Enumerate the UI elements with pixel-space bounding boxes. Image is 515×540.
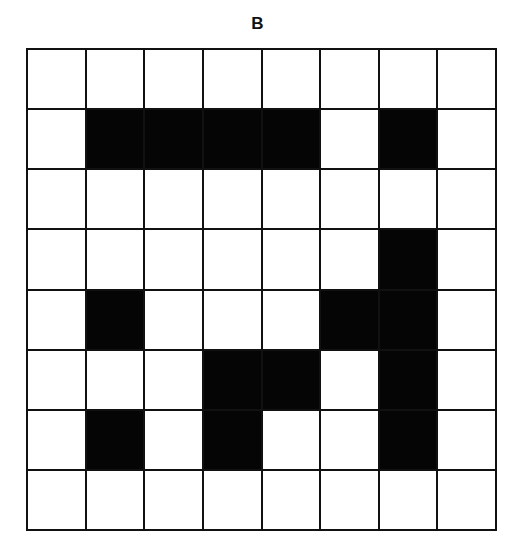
- grid-cell-empty: [321, 411, 378, 469]
- grid-cell-empty: [204, 230, 261, 288]
- grid-cell-empty: [204, 50, 261, 108]
- grid-cell-empty: [204, 471, 261, 529]
- grid-cell-filled: [380, 230, 437, 288]
- grid-cell-empty: [263, 471, 320, 529]
- grid-cell-empty: [321, 351, 378, 409]
- grid-cell-filled: [204, 110, 261, 168]
- grid-cell-empty: [87, 170, 144, 228]
- grid-cell-empty: [28, 351, 85, 409]
- grid-cell-filled: [87, 411, 144, 469]
- grid-cell-empty: [380, 50, 437, 108]
- grid-cell-empty: [263, 50, 320, 108]
- grid-cell-filled: [321, 291, 378, 349]
- grid-cell-empty: [438, 471, 495, 529]
- pixel-grid: [26, 48, 497, 531]
- grid-cell-empty: [263, 291, 320, 349]
- grid-cell-empty: [380, 471, 437, 529]
- grid-cell-empty: [263, 230, 320, 288]
- grid-cell-empty: [28, 110, 85, 168]
- grid-cell-empty: [145, 351, 202, 409]
- grid-cell-empty: [87, 50, 144, 108]
- grid-cell-empty: [438, 110, 495, 168]
- grid-cell-empty: [263, 170, 320, 228]
- grid-cell-empty: [263, 411, 320, 469]
- grid-cell-empty: [321, 170, 378, 228]
- grid-cell-empty: [28, 471, 85, 529]
- grid-cell-empty: [28, 50, 85, 108]
- grid-cell-empty: [145, 230, 202, 288]
- grid-cell-empty: [438, 411, 495, 469]
- grid-cell-empty: [380, 170, 437, 228]
- grid-cell-empty: [438, 291, 495, 349]
- grid-cell-filled: [380, 110, 437, 168]
- grid-cell-filled: [87, 291, 144, 349]
- grid-cell-empty: [145, 50, 202, 108]
- grid-cell-empty: [321, 471, 378, 529]
- grid-cell-filled: [263, 351, 320, 409]
- grid-cell-empty: [321, 230, 378, 288]
- grid-cell-empty: [87, 230, 144, 288]
- grid-cell-empty: [438, 170, 495, 228]
- grid-cell-filled: [145, 110, 202, 168]
- grid-cell-empty: [321, 110, 378, 168]
- grid-cell-empty: [204, 291, 261, 349]
- grid-cell-empty: [438, 230, 495, 288]
- grid-cell-empty: [28, 230, 85, 288]
- grid-cell-empty: [145, 170, 202, 228]
- grid-cell-filled: [204, 351, 261, 409]
- figure-label: B: [0, 14, 515, 34]
- grid-cell-filled: [87, 110, 144, 168]
- grid-cell-empty: [87, 471, 144, 529]
- grid-cell-filled: [380, 291, 437, 349]
- grid-cell-empty: [28, 291, 85, 349]
- grid-cell-filled: [380, 411, 437, 469]
- grid-cell-empty: [321, 50, 378, 108]
- grid-cell-empty: [145, 291, 202, 349]
- grid-cell-empty: [145, 411, 202, 469]
- grid-cell-filled: [204, 411, 261, 469]
- grid-cell-empty: [145, 471, 202, 529]
- grid-cell-empty: [438, 50, 495, 108]
- grid-cell-empty: [204, 170, 261, 228]
- grid-cell-empty: [87, 351, 144, 409]
- grid-cell-empty: [28, 411, 85, 469]
- grid-cell-filled: [380, 351, 437, 409]
- grid-cell-empty: [438, 351, 495, 409]
- grid-cell-empty: [28, 170, 85, 228]
- grid-cell-filled: [263, 110, 320, 168]
